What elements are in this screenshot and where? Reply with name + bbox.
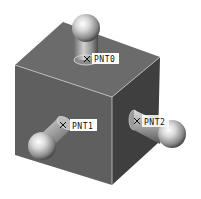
datum-feature-pnt0[interactable]: PNT0	[72, 14, 119, 65]
datum-label-pnt0[interactable]: PNT0	[94, 55, 115, 64]
cad-viewport[interactable]: PNT0 PNT1 PNT2	[0, 0, 201, 199]
sphere-pnt0[interactable]	[72, 14, 100, 42]
sphere-pnt1[interactable]	[28, 132, 56, 160]
datum-label-pnt2[interactable]: PNT2	[144, 118, 165, 127]
datum-label-pnt1[interactable]: PNT1	[72, 122, 93, 131]
